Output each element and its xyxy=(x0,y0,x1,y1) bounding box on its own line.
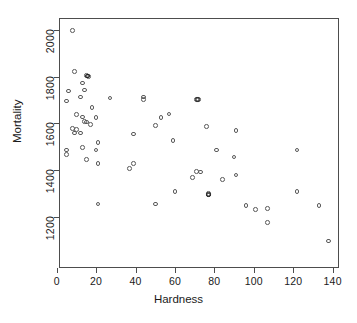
x-axis-tick-label: 0 xyxy=(37,275,77,287)
x-axis-tick xyxy=(57,268,58,273)
plot-frame xyxy=(59,18,339,268)
x-axis-tick xyxy=(175,268,176,273)
x-axis-tick xyxy=(254,268,255,273)
x-axis-tick xyxy=(136,268,137,273)
x-axis-tick xyxy=(293,268,294,273)
x-axis-tick xyxy=(333,268,334,273)
x-axis-tick xyxy=(214,268,215,273)
scatter-plot-figure: 02040608010012014012001400160018002000 H… xyxy=(0,0,357,323)
x-axis-tick-label: 40 xyxy=(116,275,156,287)
y-axis-tick-label: 1600 xyxy=(44,122,56,172)
x-axis-tick-label: 120 xyxy=(273,275,313,287)
x-axis-tick-label: 80 xyxy=(194,275,234,287)
y-axis-tick-label: 1800 xyxy=(44,76,56,126)
y-axis-tick-label: 1400 xyxy=(44,169,56,219)
x-axis-tick-label: 60 xyxy=(155,275,195,287)
x-axis-tick-label: 100 xyxy=(234,275,274,287)
y-axis-tick-label: 2000 xyxy=(44,29,56,79)
x-axis-tick-label: 20 xyxy=(76,275,116,287)
x-axis-tick xyxy=(96,268,97,273)
x-axis-tick-label: 140 xyxy=(313,275,353,287)
y-axis-tick-label: 1200 xyxy=(44,216,56,266)
x-axis-label: Hardness xyxy=(0,293,357,305)
y-axis-label: Mortality xyxy=(11,100,23,143)
